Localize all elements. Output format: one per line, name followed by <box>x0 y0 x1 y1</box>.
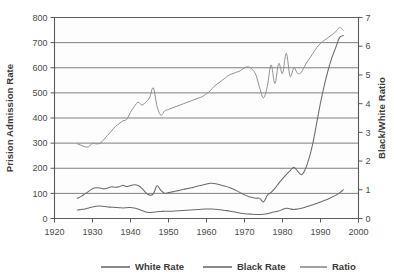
x-tick-label: 1990 <box>310 227 330 237</box>
y-tick-label-left: 200 <box>32 163 47 173</box>
y-tick-label-right: 6 <box>366 41 371 51</box>
y-tick-label-right: 2 <box>366 156 371 166</box>
x-tick-label: 1960 <box>196 227 216 237</box>
legend-label: Ratio <box>332 261 356 272</box>
y-axis-title-left: Prision Admission Rate <box>4 64 15 172</box>
y-tick-label-left: 800 <box>32 13 47 23</box>
line-chart: 0100200300400500600700800012345671920193… <box>0 0 394 280</box>
y-tick-label-left: 0 <box>42 214 47 224</box>
legend-label: Black Rate <box>237 261 286 272</box>
y-tick-label-right: 7 <box>366 13 371 23</box>
legend-label: White Rate <box>135 261 184 272</box>
legend-item-ratio[interactable]: Ratio <box>300 261 356 272</box>
y-tick-label-right: 5 <box>366 70 371 80</box>
x-tick-label: 1920 <box>44 227 64 237</box>
y-tick-label-left: 100 <box>32 189 47 199</box>
y-tick-label-right: 1 <box>366 185 371 195</box>
x-tick-label: 2000 <box>348 227 368 237</box>
x-tick-label: 1950 <box>158 227 178 237</box>
legend-item-black-rate[interactable]: Black Rate <box>203 261 286 272</box>
y-tick-label-left: 300 <box>32 138 47 148</box>
x-tick-label: 1940 <box>120 227 140 237</box>
legend-item-white-rate[interactable]: White Rate <box>101 261 184 272</box>
y-axis-right-ticks: 01234567 <box>359 13 371 224</box>
y-axis-left-ticks: 0100200300400500600700800 <box>32 13 54 224</box>
x-tick-label: 1970 <box>234 227 254 237</box>
y-tick-label-left: 600 <box>32 63 47 73</box>
x-tick-label: 1930 <box>82 227 102 237</box>
y-axis-title-right: Black/White Ratio <box>376 77 387 159</box>
y-tick-label-right: 3 <box>366 128 371 138</box>
y-tick-label-right: 4 <box>366 99 371 109</box>
legend: White RateBlack RateRatio <box>101 261 356 272</box>
y-tick-label-right: 0 <box>366 214 371 224</box>
chart-container: 0100200300400500600700800012345671920193… <box>0 0 394 280</box>
x-tick-label: 1980 <box>272 227 292 237</box>
y-tick-label-left: 500 <box>32 88 47 98</box>
y-tick-label-left: 400 <box>32 113 47 123</box>
y-tick-label-left: 700 <box>32 38 47 48</box>
x-axis-ticks: 192019301940195019601970198019902000 <box>44 219 368 237</box>
